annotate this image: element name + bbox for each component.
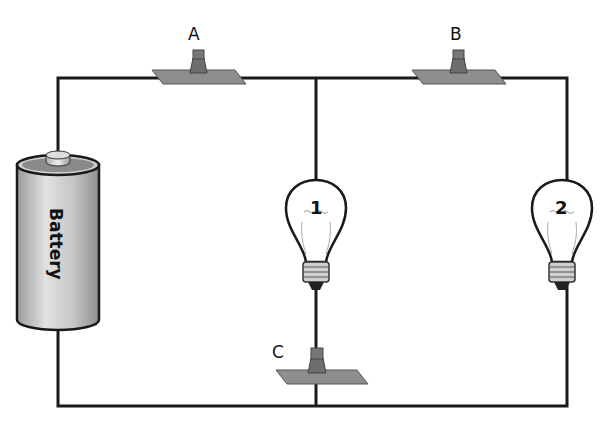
- circuit-diagram: Battery A B C 1: [0, 0, 601, 424]
- switch-b[interactable]: B: [412, 24, 506, 84]
- wire-bottom: [58, 280, 567, 406]
- bulb-2: 2: [532, 180, 592, 290]
- battery: Battery: [17, 151, 99, 330]
- bulb-2-label: 2: [555, 197, 568, 218]
- bulb-1: 1: [286, 180, 346, 290]
- switch-c[interactable]: C: [272, 342, 368, 384]
- wire-top: [58, 78, 567, 190]
- switch-b-label: B: [450, 24, 462, 44]
- battery-label: Battery: [46, 208, 66, 280]
- switch-a[interactable]: A: [152, 24, 246, 84]
- bulb-1-label: 1: [310, 197, 323, 218]
- switch-a-label: A: [188, 24, 200, 44]
- switch-c-label: C: [272, 342, 284, 362]
